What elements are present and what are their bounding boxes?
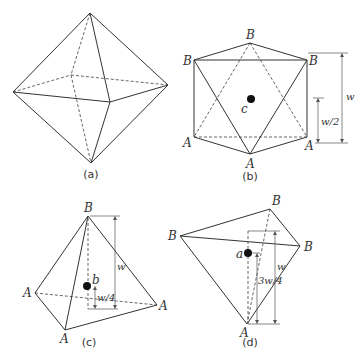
dim-label-w: w [277,261,286,272]
caption-d: (d) [242,336,258,349]
center-label-a: a [236,247,243,261]
vertex-label: B [308,54,318,68]
vertex-label: A [22,286,32,300]
vertex-label: B [271,194,281,208]
vertex-label: B [83,201,93,215]
vertex-label: A [59,332,69,346]
dim-label-w: w [117,261,126,272]
dim-label-w: w [346,91,355,102]
vertex-label: A [304,139,314,153]
vertex-label: B [245,28,255,42]
dim-label-w-half: w/2 [321,116,339,127]
vertex-label: B [182,54,192,68]
caption-b: (b) [242,170,258,183]
panel-d: a w 3w/4 B B B A (d) [167,194,313,349]
center-label-c: c [241,102,248,116]
center-label-b: b [92,273,100,287]
panel-a: (a) [13,13,168,181]
vertex-label: A [182,136,192,150]
octahedron-diagram: (a) c B B B A A A w w/2 (b) [0,0,362,357]
dim-label-w-quarter: w/4 [97,292,115,303]
center-dot-b [83,282,91,290]
vertex-label: A [158,299,168,313]
center-dot-c [247,95,255,103]
panel-c: b w w/4 B A A A (c) [22,201,168,349]
center-dot-a [244,249,252,257]
vertex-label: B [303,240,313,254]
caption-c: (c) [82,336,97,349]
caption-a: (a) [83,168,98,181]
vertex-label: B [167,229,177,243]
panel-b: c B B B A A A w w/2 (b) [182,28,355,183]
vertex-label: A [245,157,255,171]
dim-label-three-quarter-w: 3w/4 [258,275,283,286]
